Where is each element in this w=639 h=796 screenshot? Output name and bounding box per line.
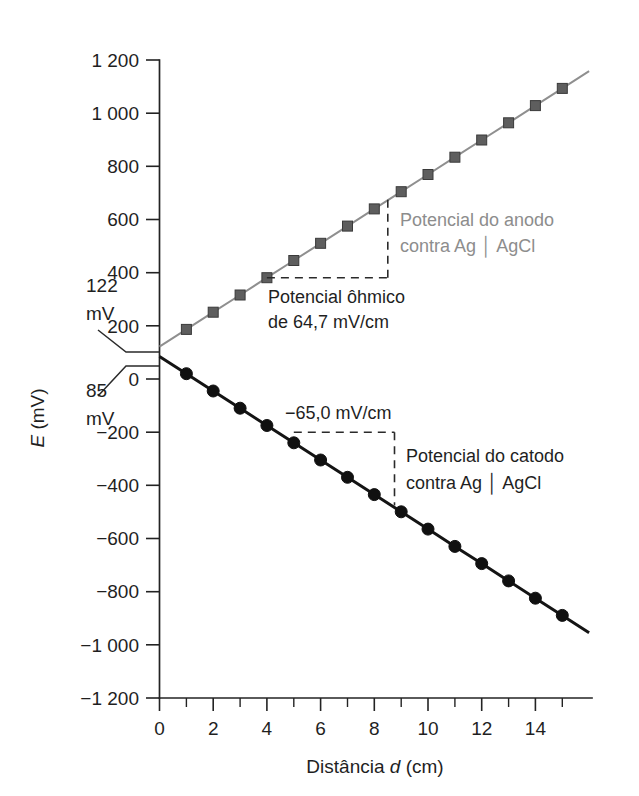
x-tick-label: 12 (471, 718, 492, 739)
y-tick-label: 600 (107, 209, 139, 230)
anode-series-label-line2: contra Ag │ AgCl (400, 235, 535, 258)
x-axis-title: Distância d (cm) (306, 756, 443, 777)
y-tick-label: 0 (128, 369, 139, 390)
cathode-intercept-value: 85 (86, 380, 107, 401)
y-tick-label: −1 000 (80, 635, 139, 656)
y-tick-label: −800 (96, 581, 139, 602)
y-axis-title-unit: (mV) (27, 388, 48, 434)
x-tick-label: 2 (208, 718, 219, 739)
y-tick-label: 800 (107, 156, 139, 177)
potential-vs-distance-chart: 1 200 1 000 800 600 400 200 0 −200 −400 … (0, 0, 639, 796)
y-tick-label: 1 200 (91, 50, 139, 71)
x-tick-label: 14 (525, 718, 547, 739)
y-axis-title-symbol: E (27, 435, 48, 448)
y-axis-title: E (mV) (27, 388, 48, 447)
anode-series-label-line1: Potencial do anodo (400, 210, 554, 230)
anode-intercept-unit: mV (86, 303, 115, 324)
x-tick-label: 8 (369, 718, 380, 739)
x-tick-label: 0 (154, 718, 165, 739)
x-tick-label: 4 (262, 718, 273, 739)
x-axis-title-pre: Distância (306, 756, 389, 777)
y-tick-label: −600 (96, 528, 139, 549)
cathode-intercept-unit: mV (86, 408, 115, 429)
y-tick-label: −1 200 (80, 688, 139, 709)
ohmic-potential-label-line1: Potencial ôhmico (268, 287, 405, 307)
cathode-slope-label: −65,0 mV/cm (285, 403, 392, 423)
svg-text:E (mV): E (mV) (27, 388, 48, 447)
y-tick-label: 1 000 (91, 103, 139, 124)
x-tick-label: 6 (315, 718, 326, 739)
cathode-series-label-line2: contra Ag │ AgCl (406, 472, 541, 495)
anode-intercept-value: 122 (86, 275, 118, 296)
cathode-series-label-line1: Potencial do catodo (406, 446, 564, 466)
ohmic-potential-label-line2: de 64,7 mV/cm (268, 312, 389, 332)
x-tick-label: 10 (417, 718, 438, 739)
y-tick-label: −400 (96, 475, 139, 496)
x-axis-title-unit: (cm) (400, 756, 443, 777)
chart-figure: 1 200 1 000 800 600 400 200 0 −200 −400 … (0, 0, 639, 796)
